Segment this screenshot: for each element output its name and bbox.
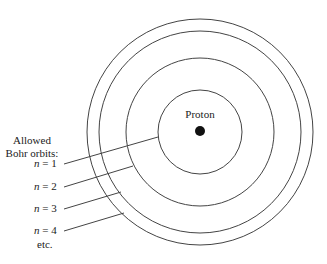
etc-label: etc.: [37, 238, 53, 250]
orbit-label-n3: n = 3: [34, 202, 57, 214]
proton-dot: [195, 126, 205, 136]
leader-n3: [64, 192, 121, 209]
leader-n4: [64, 213, 124, 231]
leader-n1: [64, 137, 158, 164]
leader-n2: [64, 166, 133, 187]
proton-label: Proton: [180, 108, 220, 121]
legend-title-line1: Allowed: [2, 134, 62, 147]
orbit-label-n2: n = 2: [34, 180, 57, 192]
orbit-label-n1: n = 1: [34, 157, 57, 169]
orbit-label-n4: n = 4: [34, 224, 57, 236]
